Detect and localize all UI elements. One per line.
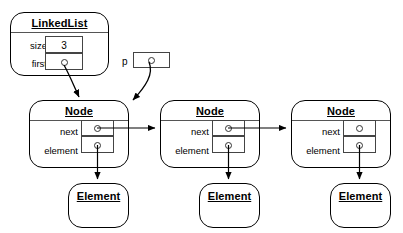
- element-title-1: Element: [69, 190, 128, 202]
- node-field-label-element-1: element: [30, 146, 78, 156]
- linkedlist-size-valuebox[interactable]: 3: [45, 36, 83, 53]
- linkedlist-field-label-first: first: [19, 59, 47, 69]
- diagram-canvas: LinkedList size first 3 p Node next elem…: [0, 0, 403, 233]
- node-element-pointer-dot-1: [94, 142, 101, 149]
- node-element-pointer-dot-2: [225, 142, 232, 149]
- node-element-valuebox-3[interactable]: [343, 136, 376, 153]
- node-element-valuebox-1[interactable]: [81, 136, 114, 153]
- node-next-valuebox-1[interactable]: [81, 120, 114, 136]
- node-next-pointer-dot-1: [94, 125, 101, 132]
- node-title-1: Node: [30, 105, 128, 117]
- element-title-2: Element: [200, 190, 259, 202]
- pointer-variable-valuebox[interactable]: [133, 52, 170, 68]
- node-element-pointer-dot-3: [356, 142, 363, 149]
- linkedlist-title: LinkedList: [11, 17, 108, 29]
- linkedlist-first-pointer-dot: [61, 59, 68, 66]
- linkedlist-field-label-size: size: [19, 41, 47, 51]
- node-object-1[interactable]: Node next element: [29, 100, 129, 168]
- node-next-valuebox-2[interactable]: [212, 120, 245, 136]
- node-title-3: Node: [292, 105, 390, 117]
- node-next-pointer-dot-3: [356, 125, 363, 132]
- linkedlist-title-divider: [11, 32, 108, 33]
- pointer-variable-dot: [148, 57, 155, 64]
- pointer-variable-label: p: [122, 57, 128, 67]
- linkedlist-first-valuebox[interactable]: [45, 53, 83, 70]
- node-field-label-element-2: element: [161, 146, 209, 156]
- element-object-2[interactable]: Element: [199, 183, 260, 228]
- node-field-label-element-3: element: [292, 146, 340, 156]
- node-object-3[interactable]: Node next element: [291, 100, 391, 168]
- node-title-2: Node: [161, 105, 259, 117]
- node-field-label-next-2: next: [165, 127, 209, 137]
- node-field-label-next-1: next: [34, 127, 78, 137]
- node-next-pointer-dot-2: [225, 125, 232, 132]
- element-title-3: Element: [331, 190, 390, 202]
- element-object-1[interactable]: Element: [68, 183, 129, 228]
- node-element-valuebox-2[interactable]: [212, 136, 245, 153]
- node-object-2[interactable]: Node next element: [160, 100, 260, 168]
- linkedlist-size-value: 3: [46, 41, 82, 51]
- element-object-3[interactable]: Element: [330, 183, 391, 228]
- node-field-label-next-3: next: [296, 127, 340, 137]
- node-next-valuebox-3[interactable]: [343, 120, 376, 136]
